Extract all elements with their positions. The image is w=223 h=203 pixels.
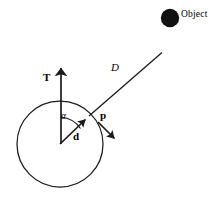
momentum-label-p: p: [100, 110, 106, 121]
diagram-canvas: [0, 0, 223, 203]
angle-label-alpha: α: [61, 112, 66, 122]
object-dot-icon: [161, 9, 179, 27]
object-label: Object: [181, 10, 208, 20]
distance-line-d: [89, 53, 162, 117]
distance-label-d: D: [111, 62, 119, 73]
direction-label-d: d: [73, 131, 79, 142]
tangent-label-t: T: [43, 72, 50, 83]
vector-diagram-figure: Object D T d p α: [0, 0, 223, 203]
